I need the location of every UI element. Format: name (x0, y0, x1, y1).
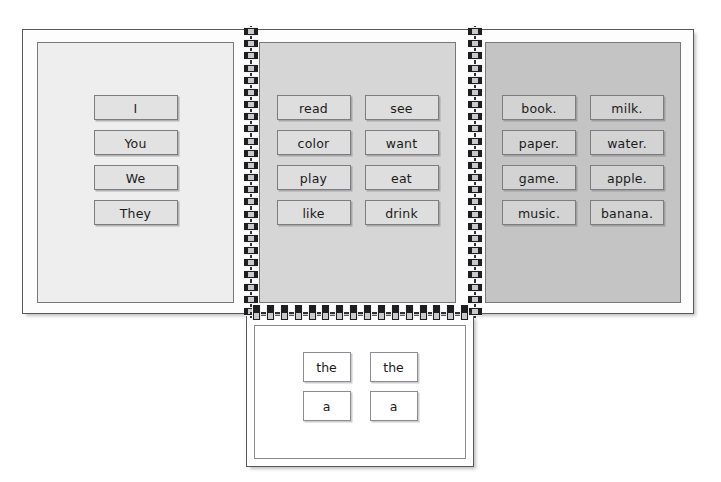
spiral-ring (252, 305, 261, 320)
spiral-ring (244, 173, 258, 182)
word-card[interactable]: want (365, 130, 439, 155)
spiral-ring (468, 173, 482, 182)
spiral-ring (468, 137, 482, 146)
spiral-ring (460, 305, 469, 320)
spiral-ring (244, 27, 258, 36)
word-card[interactable]: color (277, 130, 351, 155)
spiral-ring (266, 305, 275, 320)
spiral-ring (419, 305, 428, 320)
word-card[interactable]: play (277, 165, 351, 190)
spiral-ring (468, 246, 482, 255)
word-card[interactable]: a (370, 391, 418, 421)
word-card[interactable]: We (94, 165, 178, 190)
spiral-ring (244, 185, 258, 194)
spiral-ring (244, 161, 258, 170)
spiral-ring (244, 197, 258, 206)
word-card[interactable]: paper. (502, 130, 576, 155)
spiral-ring (244, 64, 258, 73)
word-card[interactable]: drink (365, 200, 439, 225)
spiral-ring (335, 305, 344, 320)
flipbook-canvas: I You We They read see color want play e… (0, 0, 721, 482)
spiral-ring (244, 234, 258, 243)
spiral-ring (468, 112, 482, 121)
spiral-ring (432, 305, 441, 320)
spiral-ring (244, 100, 258, 109)
spiral-ring (468, 51, 482, 60)
spiral-ring (468, 295, 482, 304)
spiral-ring (468, 197, 482, 206)
article-card-grid: the the a a (255, 352, 465, 421)
spiral-ring (244, 88, 258, 97)
object-card-grid: book. milk. paper. water. game. apple. m… (486, 95, 680, 225)
panel-subjects[interactable]: I You We They (37, 42, 234, 303)
word-card[interactable]: eat (365, 165, 439, 190)
spiral-ring (468, 64, 482, 73)
spiral-ring (244, 124, 258, 133)
spiral-ring (363, 305, 372, 320)
spiral-ring (405, 305, 414, 320)
word-card[interactable]: apple. (590, 165, 664, 190)
spiral-ring (468, 270, 482, 279)
spiral-ring (244, 270, 258, 279)
word-card[interactable]: read (277, 95, 351, 120)
spiral-ring (468, 283, 482, 292)
word-card[interactable]: see (365, 95, 439, 120)
spiral-ring (244, 258, 258, 267)
word-card[interactable]: the (303, 352, 351, 382)
verb-card-grid: read see color want play eat like drink (260, 95, 455, 225)
spiral-ring (468, 185, 482, 194)
word-card[interactable]: milk. (590, 95, 664, 120)
spiral-ring (468, 39, 482, 48)
spiral-ring (468, 149, 482, 158)
spiral-ring (244, 222, 258, 231)
word-card[interactable]: game. (502, 165, 576, 190)
panel-objects[interactable]: book. milk. paper. water. game. apple. m… (485, 42, 681, 303)
word-card[interactable]: music. (502, 200, 576, 225)
spiral-ring (244, 246, 258, 255)
spiral-ring (294, 305, 303, 320)
spiral-ring (468, 88, 482, 97)
spiral-binding-right-icon (468, 26, 482, 318)
subject-card-grid: I You We They (38, 95, 233, 225)
spiral-ring (468, 234, 482, 243)
spiral-ring (244, 39, 258, 48)
word-card[interactable]: banana. (590, 200, 664, 225)
spiral-ring (391, 305, 400, 320)
bottom-page-inner-frame: the the a a (254, 325, 466, 459)
spiral-ring (468, 124, 482, 133)
spiral-ring (468, 222, 482, 231)
spiral-ring (280, 305, 289, 320)
top-spread-page: I You We They read see color want play e… (22, 29, 694, 314)
spiral-ring (244, 137, 258, 146)
word-card[interactable]: You (94, 130, 178, 155)
spiral-ring (468, 210, 482, 219)
word-card[interactable]: I (94, 95, 178, 120)
spiral-ring (244, 283, 258, 292)
spiral-ring (377, 305, 386, 320)
spiral-ring (244, 112, 258, 121)
spiral-ring (244, 76, 258, 85)
spiral-binding-left-icon (244, 26, 258, 318)
word-card[interactable]: like (277, 200, 351, 225)
spiral-ring (468, 27, 482, 36)
bottom-article-page: the the a a (246, 315, 474, 467)
panel-verbs[interactable]: read see color want play eat like drink (259, 42, 456, 303)
spiral-ring (468, 76, 482, 85)
spiral-ring (446, 305, 455, 320)
word-card[interactable]: the (370, 352, 418, 382)
spiral-ring (321, 305, 330, 320)
spiral-ring (244, 51, 258, 60)
spiral-ring (468, 161, 482, 170)
spiral-ring (308, 305, 317, 320)
word-card[interactable]: They (94, 200, 178, 225)
spiral-ring (468, 100, 482, 109)
word-card[interactable]: a (303, 391, 351, 421)
spiral-binding-bottom-icon (250, 305, 472, 320)
spiral-ring (244, 210, 258, 219)
spiral-ring (244, 149, 258, 158)
word-card[interactable]: book. (502, 95, 576, 120)
spiral-ring (244, 295, 258, 304)
word-card[interactable]: water. (590, 130, 664, 155)
spiral-ring (349, 305, 358, 320)
spiral-ring (468, 258, 482, 267)
